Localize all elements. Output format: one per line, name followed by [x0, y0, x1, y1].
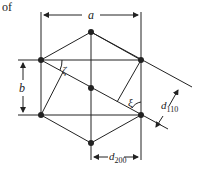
label-a: a [88, 8, 94, 22]
lattice-point-upper-left [38, 57, 44, 63]
lattice-point-center [88, 85, 94, 91]
label-xi: ξ [128, 96, 133, 109]
lattice-point-bottom [88, 140, 94, 146]
lattice-point-lower-left [38, 112, 44, 118]
label-b: b [19, 81, 25, 95]
label-d110: d110 [161, 99, 178, 114]
lattice-point-lower-right [138, 112, 144, 118]
label-d200: d200 [109, 150, 127, 165]
lattice-diagram: a b ζ ξ d110 d200 [0, 0, 205, 173]
label-zeta: ζ [62, 64, 68, 77]
plane-line-1 [41, 60, 168, 129]
lattice-point-top [88, 29, 94, 35]
lattice-point-upper-right [138, 57, 144, 63]
